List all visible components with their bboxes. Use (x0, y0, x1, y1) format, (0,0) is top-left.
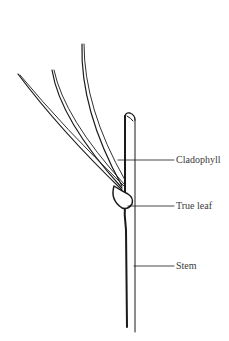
botanical-diagram (0, 0, 229, 341)
stem-drawing (125, 113, 135, 332)
true-leaf-drawing (113, 186, 133, 209)
cladophyll-label: Cladophyll (176, 155, 220, 165)
true-leaf-label: True leaf (176, 201, 212, 211)
cladophyll-drawing (18, 44, 125, 190)
stem-label: Stem (176, 261, 197, 271)
